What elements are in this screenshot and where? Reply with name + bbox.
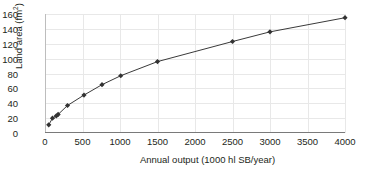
data-point-marker [81,92,86,97]
data-point-marker [118,73,123,78]
series-line [49,18,345,125]
y-axis-title-close: ) [13,3,24,6]
x-axis-title: Annual output (1000 hl SB/year) [0,154,367,165]
y-axis-title-text: Land area (fm [13,10,24,69]
data-point-marker [46,122,51,127]
data-point-marker [267,29,272,34]
chart-container: 020406080100120140160 050010001500200025… [0,0,367,174]
x-tick-label: 4000 [315,136,367,147]
data-point-marker [155,59,160,64]
data-point-marker [342,15,347,20]
data-series-layer [45,14,345,133]
y-tick-label: 20 [0,113,18,124]
series-markers [46,15,347,127]
y-axis-title-superscript: 2 [12,6,19,10]
y-tick-label: 40 [0,98,18,109]
data-point-marker [230,39,235,44]
gridline-vertical [345,14,346,133]
y-axis-title: Land area (fm2) [12,0,24,96]
data-point-marker [99,82,104,87]
